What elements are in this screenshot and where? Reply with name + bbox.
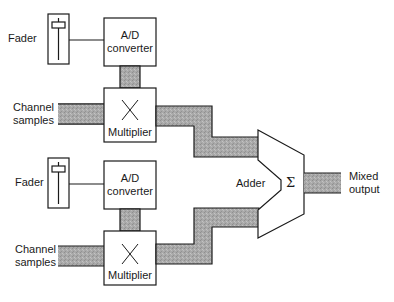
- sigma-icon: Σ: [286, 176, 295, 189]
- input-bus: [58, 246, 104, 266]
- input-label-line1: Channel: [15, 243, 56, 256]
- ad-converter-label-line1: A/D: [104, 29, 156, 42]
- input-label-line2: samples: [13, 114, 54, 127]
- multiplier-label: Multiplier: [104, 269, 156, 282]
- ad-converter-label-line2: converter: [104, 185, 156, 198]
- adder-label: Adder: [236, 177, 265, 190]
- input-label-line2: samples: [15, 256, 56, 269]
- coefficient-bus: [120, 209, 140, 231]
- input-bus: [58, 104, 104, 124]
- input-label-line1: Channel: [13, 101, 54, 114]
- output-bus: [304, 173, 341, 193]
- output-label-line1: Mixed: [349, 170, 378, 183]
- output-label-line2: output: [349, 183, 380, 196]
- fader-icon: [48, 14, 69, 64]
- diagram-canvas: [0, 0, 394, 302]
- cropped-caption: [0, 296, 394, 302]
- multiplier-label: Multiplier: [104, 126, 156, 139]
- fader-label: Fader: [8, 32, 37, 45]
- fader-icon: [48, 158, 69, 208]
- ad-converter-label-line2: converter: [104, 42, 156, 55]
- ad-converter-label-line1: A/D: [104, 172, 156, 185]
- product-bus: [156, 106, 259, 157]
- product-bus: [156, 208, 259, 264]
- fader-label: Fader: [15, 176, 44, 189]
- coefficient-bus: [120, 66, 140, 88]
